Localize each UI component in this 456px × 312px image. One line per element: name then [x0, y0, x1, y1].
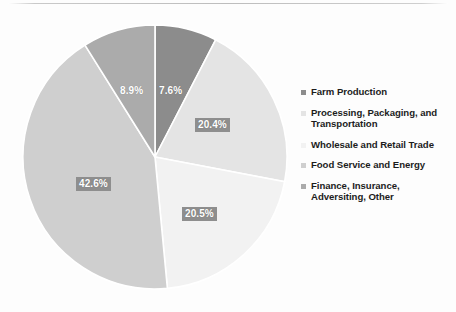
legend-item-label: Wholesale and Retail Trade	[311, 139, 434, 151]
pie-chart	[22, 24, 288, 290]
chart-page: 7.6% 8.9% 20.4% 20.5% 42.6% Farm Product…	[0, 0, 456, 312]
legend-swatch-icon	[301, 90, 306, 95]
legend-item-finance-insurance[interactable]: Finance, Insurance, Adversiting, Other	[301, 180, 451, 203]
slice-label-processing-packaging: 20.4%	[195, 118, 230, 132]
slice-label-farm-production: 7.6%	[157, 84, 184, 98]
legend-swatch-icon	[301, 143, 306, 148]
legend-swatch-icon	[301, 111, 306, 116]
legend-item-label: Finance, Insurance, Adversiting, Other	[311, 180, 451, 203]
legend-item-label: Farm Production	[311, 86, 387, 98]
chart-legend: Farm Production Processing, Packaging, a…	[301, 86, 451, 203]
legend-item-label: Food Service and Energy	[311, 159, 425, 171]
slice-label-food-service-energy: 42.6%	[76, 177, 111, 191]
legend-item-processing-packaging[interactable]: Processing, Packaging, and Transportatio…	[301, 107, 451, 130]
slice-label-wholesale-retail: 20.5%	[182, 207, 217, 221]
slice-label-finance-insurance: 8.9%	[118, 84, 145, 98]
legend-item-label: Processing, Packaging, and Transportatio…	[311, 107, 451, 130]
legend-item-farm-production[interactable]: Farm Production	[301, 86, 451, 98]
legend-item-food-service-energy[interactable]: Food Service and Energy	[301, 159, 451, 171]
legend-swatch-icon	[301, 163, 306, 168]
header-divider	[8, 3, 448, 4]
legend-swatch-icon	[301, 184, 306, 189]
legend-item-wholesale-retail[interactable]: Wholesale and Retail Trade	[301, 139, 451, 151]
pie-chart-svg	[22, 24, 288, 290]
